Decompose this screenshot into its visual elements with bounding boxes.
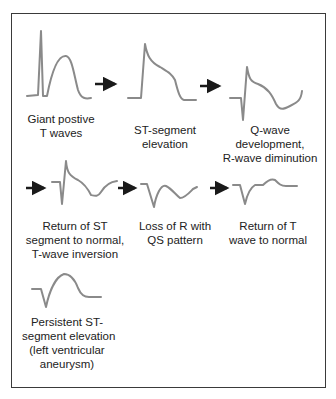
label-persistent-st-elevation: Persistent ST- segment elevation (left v… <box>22 315 112 371</box>
label-return-t-normal: Return of T wave to normal <box>220 219 316 247</box>
wave-t-normal <box>233 179 297 204</box>
wave-st-elevation <box>128 44 196 100</box>
label-loss-of-r-qs: Loss of R with QS pattern <box>130 219 220 247</box>
wave-qs <box>141 184 197 207</box>
label-giant-positive-t: Giant postive T waves <box>16 112 106 140</box>
label-q-wave-development: Q-wave development, R-wave diminution <box>220 123 320 165</box>
wave-persistent-st <box>32 274 101 307</box>
wave-q-development <box>230 67 302 120</box>
label-return-st-normal: Return of ST segment to normal, T-wave i… <box>25 219 125 261</box>
wave-t-inversion <box>52 161 117 204</box>
label-st-elevation: ST-segment elevation <box>120 123 210 151</box>
wave-giant-t <box>27 31 91 98</box>
